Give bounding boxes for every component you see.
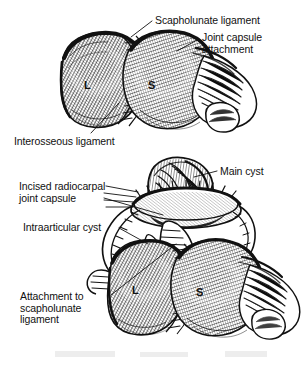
- label-joint-capsule-attachment: Joint capsule attachment: [202, 32, 262, 55]
- label-attachment-to-scapholunate-ligament: Attachment to scapholunate ligament: [20, 291, 83, 326]
- label-intraarticular-cyst: Intraarticular cyst: [23, 222, 101, 234]
- bone-letter-lower-scaphoid: S: [196, 286, 203, 298]
- label-scapholunate-ligament: Scapholunate ligament: [155, 15, 260, 27]
- label-line: ligament: [20, 314, 83, 326]
- label-line: Attachment to: [20, 291, 83, 303]
- label-line: joint capsule: [19, 193, 105, 205]
- anatomy-figure: Scapholunate ligament Joint capsule atta…: [0, 0, 302, 370]
- label-line: Joint capsule: [202, 32, 262, 44]
- bone-letter-upper-scaphoid: S: [148, 79, 155, 91]
- label-line: attachment: [202, 44, 262, 56]
- label-interosseous-ligament: Interosseous ligament: [14, 136, 115, 148]
- label-line: Incised radiocarpal: [19, 181, 105, 193]
- label-line: Main cyst: [220, 166, 263, 178]
- label-main-cyst: Main cyst: [220, 166, 263, 178]
- bone-letter-upper-lunate: L: [84, 79, 91, 91]
- label-line: Interosseous ligament: [14, 136, 115, 148]
- bone-letter-lower-lunate: L: [132, 284, 139, 296]
- print-artifact: [55, 351, 267, 357]
- label-incised-radiocarpal-joint-capsule: Incised radiocarpal joint capsule: [19, 181, 105, 204]
- label-line: Scapholunate ligament: [155, 15, 260, 27]
- label-line: Intraarticular cyst: [23, 222, 101, 234]
